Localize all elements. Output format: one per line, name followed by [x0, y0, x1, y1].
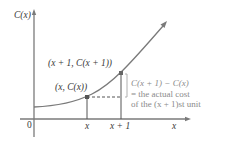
- marginal-cost-diagram: C(x) (x + 1, C(x + 1)) (x, C(x)) 0 x x +…: [0, 0, 229, 141]
- point-upper-label: (x + 1, C(x + 1)): [48, 59, 112, 69]
- y-axis-arrow-icon: [32, 9, 36, 15]
- x-axis-arrow-icon: [185, 117, 191, 121]
- difference-bracket: [125, 74, 127, 97]
- annotation: C(x + 1) − C(x) = the actual cost of the…: [131, 78, 201, 110]
- x-tick-label: x: [85, 122, 89, 132]
- x-axis-label: x: [172, 122, 176, 132]
- diagram-graphics: [0, 0, 229, 141]
- origin-label: 0: [27, 121, 32, 131]
- x-plus-1-tick-label: x + 1: [110, 122, 130, 132]
- point-lower-label: (x, C(x)): [55, 83, 87, 93]
- point-x-plus-1: [119, 71, 123, 75]
- point-x: [85, 95, 89, 99]
- annotation-line-3: of the (x + 1)st unit: [131, 99, 201, 110]
- annotation-line-1: C(x + 1) − C(x): [131, 78, 201, 89]
- y-axis-label: C(x): [14, 11, 31, 21]
- annotation-line-2: = the actual cost: [131, 89, 201, 100]
